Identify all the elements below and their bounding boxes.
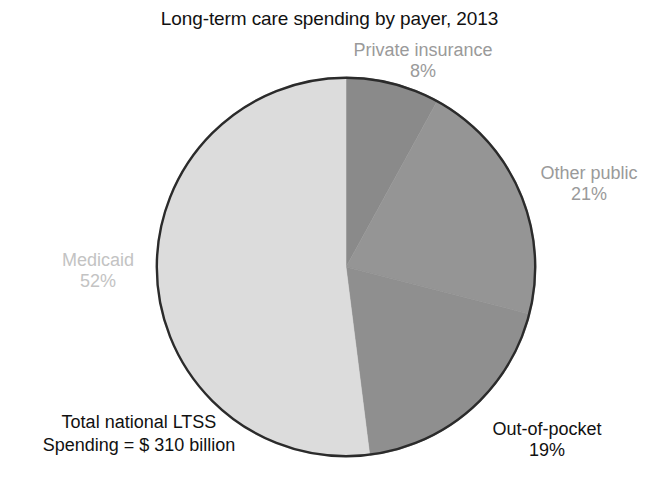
slice-label-out-of-pocket-name: Out-of-pocket	[452, 419, 642, 440]
chart-title: Long-term care spending by payer, 2013	[0, 8, 659, 30]
slice-label-private-insurance: Private insurance 8%	[318, 40, 528, 82]
pie-chart-figure: Long-term care spending by payer, 2013 P…	[0, 0, 659, 480]
slice-label-medicaid: Medicaid 52%	[28, 250, 168, 292]
total-spending-note-line2: Spending = $ 310 billion	[14, 434, 264, 457]
total-spending-note-line1: Total national LTSS	[14, 411, 264, 434]
pie-slice-medicaid	[156, 77, 370, 457]
slice-label-private-insurance-name: Private insurance	[318, 40, 528, 61]
slice-label-out-of-pocket: Out-of-pocket 19%	[452, 419, 642, 461]
slice-label-other-public: Other public 21%	[519, 163, 659, 205]
slice-label-medicaid-value: 52%	[28, 271, 168, 292]
slice-label-other-public-value: 21%	[519, 184, 659, 205]
pie-graphic	[155, 76, 537, 458]
pie-svg	[155, 76, 537, 458]
slice-label-other-public-name: Other public	[519, 163, 659, 184]
slice-label-out-of-pocket-value: 19%	[452, 440, 642, 461]
total-spending-note: Total national LTSS Spending = $ 310 bil…	[14, 411, 264, 458]
slice-label-medicaid-name: Medicaid	[28, 250, 168, 271]
slice-label-private-insurance-value: 8%	[318, 61, 528, 82]
